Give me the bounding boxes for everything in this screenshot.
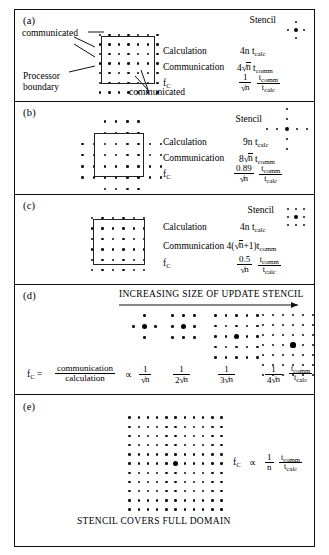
grid-dot xyxy=(156,453,159,456)
grid-dot xyxy=(147,462,150,465)
grid-dot xyxy=(282,314,285,317)
grid-dot xyxy=(147,416,150,419)
grid-dot xyxy=(174,481,177,484)
grid-dot xyxy=(184,472,187,475)
panel-d-value-1: 1√n xyxy=(139,366,151,386)
grid-dot xyxy=(306,128,308,130)
panel-e-label: (e) xyxy=(23,401,35,412)
grid-dot xyxy=(156,481,159,484)
grid-dot xyxy=(182,314,185,317)
grid-dot xyxy=(165,508,168,511)
grid-dot xyxy=(118,91,121,94)
grid-dot xyxy=(292,314,295,317)
grid-dot xyxy=(302,314,305,317)
grid-dot xyxy=(272,354,275,357)
fc-subscript-a: C xyxy=(166,82,171,89)
grid-dot xyxy=(138,453,141,456)
stencil-d-2 xyxy=(167,310,200,343)
stencil-center-dot xyxy=(181,324,186,329)
row-label-calculation-b: Calculation xyxy=(163,138,207,148)
row-label-fc-a: fC xyxy=(163,79,171,89)
grid-dot xyxy=(165,444,168,447)
stencil-center-dot xyxy=(294,215,298,219)
grid-dot xyxy=(211,462,214,465)
grid-dot xyxy=(292,334,295,337)
grid-dot xyxy=(272,344,275,347)
stencil-d-1 xyxy=(128,310,161,343)
grid-dot xyxy=(220,453,223,456)
grid-dot xyxy=(174,426,177,429)
grid-dot xyxy=(262,344,265,347)
grid-dot xyxy=(202,416,205,419)
grid-dot xyxy=(132,325,135,328)
grid-dot xyxy=(193,499,196,502)
panel-d-value-2: 12√n xyxy=(173,366,190,386)
grid-dot xyxy=(282,374,285,377)
grid-dot xyxy=(262,364,265,367)
grid-dot xyxy=(202,453,205,456)
grid-dot xyxy=(262,354,265,357)
grid-dot xyxy=(184,426,187,429)
grid-dot xyxy=(156,426,159,429)
ratio-denominator: calculation xyxy=(55,374,115,383)
grid-dot xyxy=(211,481,214,484)
grid-dot xyxy=(156,43,159,46)
grid-dot xyxy=(292,354,295,357)
grid-dot xyxy=(193,481,196,484)
stencil-glyph-b xyxy=(262,104,312,154)
grid-dot xyxy=(312,344,314,347)
row-label-fc-c: fC xyxy=(163,259,171,269)
grid-dot xyxy=(286,138,288,140)
grid-dot xyxy=(147,472,150,475)
grid-dot xyxy=(160,176,163,179)
grid-dot xyxy=(165,490,168,493)
grid-dot xyxy=(156,435,159,438)
grid-dot xyxy=(156,416,159,419)
grid-dot xyxy=(220,416,223,419)
grid-dot xyxy=(225,314,228,317)
grid-dot xyxy=(211,490,214,493)
stencil-d-3 xyxy=(210,310,263,363)
grid-dot xyxy=(262,314,265,317)
panel-d: (d) INCREASING SIZE OF UPDATE STENCIL fC… xyxy=(15,285,314,395)
grid-dot xyxy=(147,499,150,502)
grid-dot xyxy=(193,453,196,456)
grid-dot xyxy=(272,314,275,317)
grid-dot xyxy=(184,462,187,465)
grid-dot xyxy=(211,453,214,456)
row-value-calculation-c: 4n tcalc xyxy=(240,223,265,233)
grid-dot xyxy=(202,426,205,429)
grid-dot xyxy=(171,325,174,328)
grid-dot xyxy=(156,91,159,94)
panel-c: (c) Calculation Communication 4(√n+1)tco… xyxy=(15,195,314,285)
grid-dot xyxy=(149,165,152,168)
panel-e-propto: ∝ xyxy=(249,459,256,469)
grid-dot xyxy=(128,472,131,475)
grid-dot xyxy=(202,490,205,493)
grid-dot xyxy=(108,91,111,94)
grid-dot xyxy=(302,324,305,327)
grid-dot xyxy=(302,344,305,347)
grid-dot xyxy=(220,435,223,438)
grid-dot xyxy=(225,346,228,349)
grid-dot xyxy=(128,444,131,447)
grid-dot xyxy=(220,499,223,502)
row-label-fc-b: fC xyxy=(163,170,171,180)
grid-dot xyxy=(165,499,168,502)
grid-dot xyxy=(147,444,150,447)
grid-dot xyxy=(246,335,249,338)
grid-dot xyxy=(295,208,297,210)
grid-dot xyxy=(147,508,150,511)
grid-dot xyxy=(303,208,305,210)
grid-dot xyxy=(81,165,84,168)
grid-dot xyxy=(286,148,288,150)
grid-dot xyxy=(165,435,168,438)
grid-dot xyxy=(220,444,223,447)
grid-dot xyxy=(138,462,141,465)
grid-dot xyxy=(156,34,159,37)
grid-dot xyxy=(262,334,265,337)
stencil-glyph-a xyxy=(284,18,308,42)
grid-dot xyxy=(225,325,228,328)
panel-a: (a) communicated Processor boundary comm… xyxy=(15,10,314,102)
grid-dot xyxy=(165,481,168,484)
